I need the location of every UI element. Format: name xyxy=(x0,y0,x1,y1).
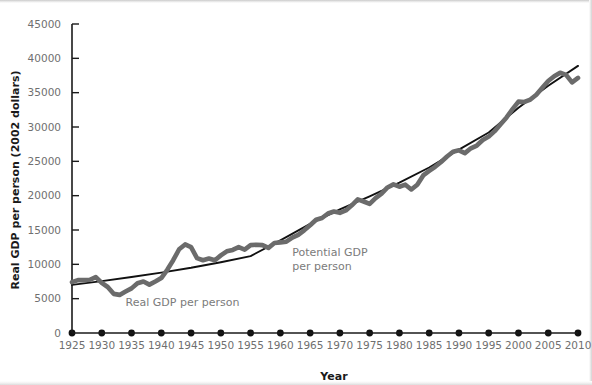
x-tick-label: 1995 xyxy=(475,339,502,351)
x-tick-label: 1970 xyxy=(327,339,354,351)
x-tick-label: 2010 xyxy=(565,339,592,351)
y-tick-label: 15000 xyxy=(28,224,61,236)
x-tick-label: 1935 xyxy=(118,339,145,351)
x-tick-label: 1965 xyxy=(297,339,324,351)
real-gdp-annotation: Real GDP per person xyxy=(126,296,240,309)
y-tick-label: 40000 xyxy=(28,52,61,64)
y-tick-label: 5000 xyxy=(34,292,61,304)
x-tick-label: 1955 xyxy=(237,339,264,351)
y-tick-label: 0 xyxy=(54,327,61,339)
x-tick-label: 1950 xyxy=(207,339,234,351)
x-tick-label: 2000 xyxy=(505,339,532,351)
line-chart-plot: 0500010000150002000025000300003500040000… xyxy=(0,0,592,385)
y-tick-label: 20000 xyxy=(28,189,61,201)
chart-figure: 0500010000150002000025000300003500040000… xyxy=(0,0,592,385)
x-tick-label: 1975 xyxy=(356,339,383,351)
y-tick-label: 25000 xyxy=(28,155,61,167)
y-tick-label: 45000 xyxy=(28,18,61,30)
potential-gdp-annotation-line2: per person xyxy=(292,260,352,273)
y-tick-label: 10000 xyxy=(28,258,61,270)
y-tick-label: 35000 xyxy=(28,86,61,98)
x-tick-label: 1990 xyxy=(446,339,473,351)
x-tick-label: 1985 xyxy=(416,339,443,351)
x-tick-label: 1925 xyxy=(59,339,86,351)
x-axis-title: Year xyxy=(319,370,348,383)
x-tick-label: 1940 xyxy=(148,339,175,351)
y-axis-title: Real GDP per person (2002 dollars) xyxy=(9,71,22,290)
y-tick-label: 30000 xyxy=(28,121,61,133)
x-axis-tick-labels: 1925193019351940194519501955196019651970… xyxy=(59,339,592,351)
potential-gdp-annotation-line1: Potential GDP xyxy=(292,246,368,259)
y-axis-tick-marks xyxy=(72,24,79,299)
x-tick-label: 1980 xyxy=(386,339,413,351)
x-tick-label: 1945 xyxy=(178,339,205,351)
x-tick-label: 1960 xyxy=(267,339,294,351)
y-axis-tick-labels: 0500010000150002000025000300003500040000… xyxy=(28,18,61,339)
x-tick-label: 2005 xyxy=(535,339,562,351)
x-tick-label: 1930 xyxy=(88,339,115,351)
